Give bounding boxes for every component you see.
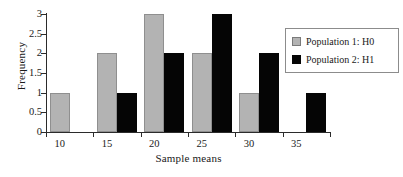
bar-20-series-1	[144, 14, 164, 132]
x-tick-mark	[330, 133, 331, 137]
legend-swatch-gray	[292, 37, 301, 46]
x-tick-mark	[235, 133, 236, 137]
legend-item: Population 1: H0	[292, 34, 393, 49]
bar-30-series-2	[259, 53, 279, 132]
legend-label: Population 1: H0	[306, 36, 374, 47]
x-tick-mark	[283, 133, 284, 137]
bar-35-series-2	[306, 93, 326, 132]
x-tick-label: 30	[232, 138, 266, 150]
y-tick-label: 3	[20, 9, 42, 19]
bar-30-series-1	[239, 93, 259, 132]
x-axis-title: Sample means	[46, 152, 331, 165]
x-tick-label: 35	[279, 138, 313, 150]
frequency-bar-chart: Frequency 00.511.522.53 101520253035 Sam…	[0, 0, 403, 177]
x-tick-mark	[141, 133, 142, 137]
legend-item: Population 2: H1	[292, 52, 393, 67]
y-axis-tick-labels: 00.511.522.53	[18, 0, 42, 177]
bar-15-series-1	[97, 53, 117, 132]
y-tick-label: 0.5	[20, 107, 42, 117]
bar-15-series-2	[117, 93, 137, 132]
x-tick-mark	[188, 133, 189, 137]
x-tick-mark	[46, 133, 47, 137]
bar-10-series-1	[50, 93, 70, 132]
bar-25-series-1	[192, 53, 212, 132]
x-tick-label: 10	[43, 138, 77, 150]
legend-swatch-black	[292, 55, 301, 64]
x-tick-label: 25	[185, 138, 219, 150]
y-tick-label: 1	[20, 88, 42, 98]
bar-25-series-2	[212, 14, 232, 132]
y-tick-label: 1.5	[20, 68, 42, 78]
y-tick-label: 2	[20, 48, 42, 58]
legend-label: Population 2: H1	[306, 54, 374, 65]
x-tick-mark	[93, 133, 94, 137]
chart-legend: Population 1: H0Population 2: H1	[285, 28, 399, 73]
y-tick-label: 2.5	[20, 29, 42, 39]
x-tick-label: 20	[137, 138, 171, 150]
x-tick-label: 15	[90, 138, 124, 150]
y-tick-label: 0	[20, 127, 42, 137]
bar-20-series-2	[164, 53, 184, 132]
